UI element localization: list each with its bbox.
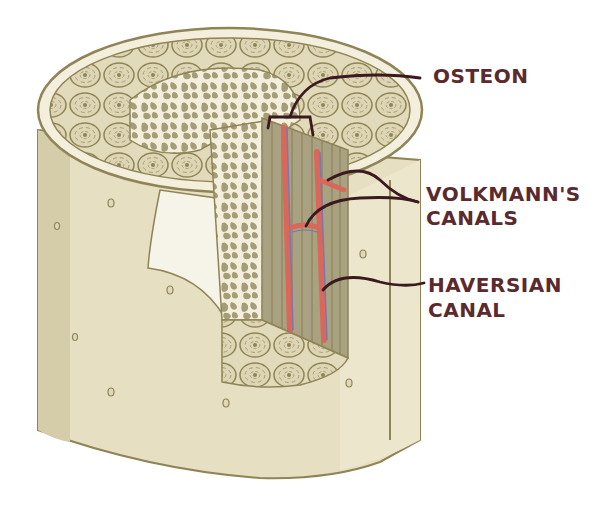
label-osteon: OSTEON xyxy=(433,64,528,88)
compact-bone-cut-face xyxy=(262,118,348,358)
bone-diagram: OSTEON VOLKMANN'S CANALS HAVERSIAN CANAL xyxy=(0,0,594,510)
label-volkmanns-canals-line2: CANALS xyxy=(426,206,519,230)
label-haversian-canal-line2: CANAL xyxy=(428,298,506,322)
label-haversian-canal-line1: HAVERSIAN xyxy=(428,273,562,297)
label-volkmanns-canals-line1: VOLKMANN'S xyxy=(426,182,581,206)
